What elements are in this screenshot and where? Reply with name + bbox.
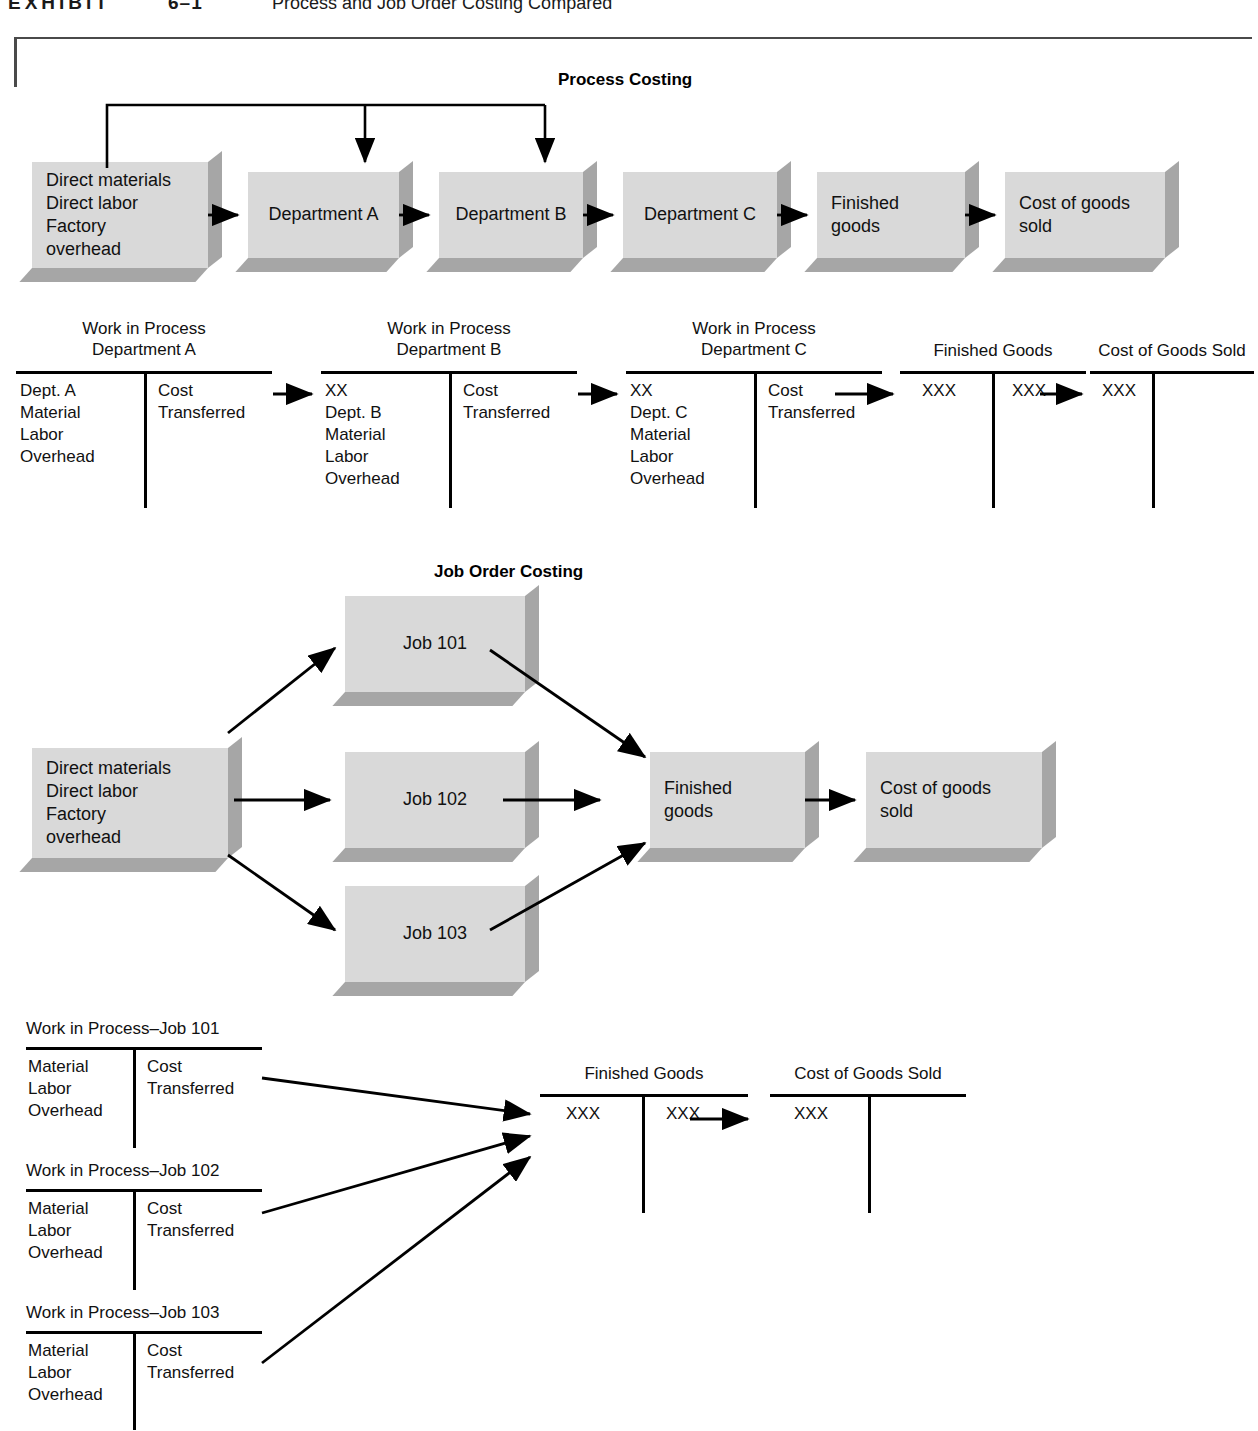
page-frame-left-tick: [14, 37, 17, 87]
taccount-debit-entries: Dept. A Material Labor Overhead: [20, 380, 95, 468]
box-bottom: [19, 268, 208, 282]
process-taccount-wip-dept-c: Work in Process Department C XX Dept. C …: [626, 318, 882, 508]
process-box-department-a-label: Department A: [248, 172, 399, 258]
box-side: [399, 161, 413, 258]
box-bottom: [332, 848, 525, 862]
joborder-box-inputs: Direct materials Direct labor Factory ov…: [32, 748, 228, 858]
taccount-top-rule: [1090, 371, 1254, 374]
taccount-stem: [992, 371, 995, 508]
joborder-taccount-cost-of-goods-sold: Cost of Goods Sold XXX: [770, 1063, 966, 1213]
joborder-taccount-wip-job-102: Work in Process–Job 102 Material Labor O…: [26, 1160, 262, 1290]
taccount-title: Work in Process Department A: [16, 318, 272, 361]
process-box-department-c-label: Department C: [623, 172, 777, 258]
taccount-stem: [754, 371, 757, 508]
box-bottom: [426, 258, 583, 272]
joborder-box-inputs-label: Direct materials Direct labor Factory ov…: [32, 748, 228, 858]
process-box-inputs: Direct materials Direct labor Factory ov…: [32, 162, 208, 268]
taccount-title: Work in Process Department C: [626, 318, 882, 361]
process-box-department-a: Department A: [248, 172, 399, 258]
taccount-stem: [449, 371, 452, 508]
taccount-title: Cost of Goods Sold: [1090, 340, 1254, 361]
joborder-box-job-103: Job 103: [345, 886, 525, 982]
taccount-stem: [1152, 371, 1155, 508]
taccount-title: Work in Process Department B: [321, 318, 577, 361]
box-side: [777, 161, 791, 258]
taccount-debit-entries: XX Dept. C Material Labor Overhead: [630, 380, 705, 490]
joborder-box-job-102: Job 102: [345, 752, 525, 848]
box-side: [1042, 741, 1056, 848]
box-bottom: [637, 848, 805, 862]
joborder-box-job-101: Job 101: [345, 596, 525, 692]
joborder-box-finished-goods: Finished goods: [650, 752, 805, 848]
process-taccount-wip-dept-b: Work in Process Department B XX Dept. B …: [321, 318, 577, 508]
joborder-taccount-wip-job-101: Work in Process–Job 101 Material Labor O…: [26, 1018, 262, 1148]
box-bottom: [332, 692, 525, 706]
exhibit-label: EXHIBIT: [8, 0, 111, 14]
exhibit-page: EXHIBIT 6–1 Process and Job Order Costin…: [0, 0, 1258, 1431]
box-bottom: [610, 258, 777, 272]
box-bottom: [853, 848, 1042, 862]
taccount-credit-entries: Cost Transferred: [768, 380, 855, 424]
joborder-taccount-wip-job-103: Work in Process–Job 103 Material Labor O…: [26, 1302, 262, 1430]
taccount-credit-entries: Cost Transferred: [147, 1198, 234, 1242]
process-box-department-c: Department C: [623, 172, 777, 258]
taccount-top-rule: [26, 1189, 262, 1192]
taccount-debit-entries: XXX: [566, 1103, 600, 1125]
taccount-top-rule: [26, 1047, 262, 1050]
box-side: [805, 741, 819, 848]
taccount-credit-entries: Cost Transferred: [147, 1340, 234, 1384]
taccount-credit-entries: Cost Transferred: [158, 380, 245, 424]
process-box-department-b: Department B: [439, 172, 583, 258]
joborder-taccount-finished-goods: Finished Goods XXX XXX: [540, 1063, 748, 1213]
box-bottom: [804, 258, 965, 272]
process-taccount-wip-dept-a: Work in Process Department A Dept. A Mat…: [16, 318, 272, 508]
taccount-credit-entries: XXX: [1012, 380, 1046, 402]
taccount-stem: [133, 1047, 136, 1148]
box-side: [525, 875, 539, 982]
taccount-debit-entries: Material Labor Overhead: [28, 1340, 103, 1406]
taccount-credit-entries: XXX: [666, 1103, 700, 1125]
joborder-box-finished-goods-label: Finished goods: [650, 752, 805, 848]
taccount-stem: [868, 1094, 871, 1213]
taccount-debit-entries: XXX: [794, 1103, 828, 1125]
exhibit-title: Process and Job Order Costing Compared: [272, 0, 612, 14]
taccount-debit-entries: Material Labor Overhead: [28, 1056, 103, 1122]
process-box-cogs-label: Cost of goods sold: [1005, 172, 1165, 258]
taccount-title: Work in Process–Job 102: [26, 1160, 262, 1181]
page-frame-top-rule: [14, 37, 1252, 39]
box-side: [525, 741, 539, 848]
taccount-stem: [144, 371, 147, 508]
taccount-credit-entries: Cost Transferred: [147, 1056, 234, 1100]
joborder-box-cogs-label: Cost of goods sold: [866, 752, 1042, 848]
process-taccount-finished-goods: Finished Goods XXX XXX: [900, 340, 1086, 508]
process-costing-heading: Process Costing: [558, 70, 692, 90]
box-bottom: [332, 982, 525, 996]
process-box-cogs: Cost of goods sold: [1005, 172, 1165, 258]
joborder-box-job-101-label: Job 101: [345, 596, 525, 692]
joborder-box-cogs: Cost of goods sold: [866, 752, 1042, 848]
box-side: [208, 151, 222, 268]
taccount-title: Work in Process–Job 103: [26, 1302, 262, 1323]
box-bottom: [235, 258, 399, 272]
joborder-box-job-103-label: Job 103: [345, 886, 525, 982]
box-side: [228, 737, 242, 858]
taccount-title: Finished Goods: [540, 1063, 748, 1084]
process-taccount-cost-of-goods-sold: Cost of Goods Sold XXX: [1090, 340, 1254, 508]
taccount-title: Cost of Goods Sold: [770, 1063, 966, 1084]
process-box-department-b-label: Department B: [439, 172, 583, 258]
process-input-bracket: [107, 105, 545, 168]
exhibit-number: 6–1: [168, 0, 203, 14]
box-side: [1165, 161, 1179, 258]
joborder-fanout-arrows: [228, 648, 335, 930]
taccount-title: Finished Goods: [900, 340, 1086, 361]
joborder-box-job-102-label: Job 102: [345, 752, 525, 848]
taccount-stem: [133, 1331, 136, 1430]
process-box-finished-goods: Finished goods: [817, 172, 965, 258]
taccount-stem: [133, 1189, 136, 1290]
box-side: [583, 161, 597, 258]
taccount-stem: [642, 1094, 645, 1213]
box-side: [965, 161, 979, 258]
box-side: [525, 585, 539, 692]
taccount-debit-entries: XXX: [922, 380, 956, 402]
taccount-debit-entries: XXX: [1102, 380, 1136, 402]
